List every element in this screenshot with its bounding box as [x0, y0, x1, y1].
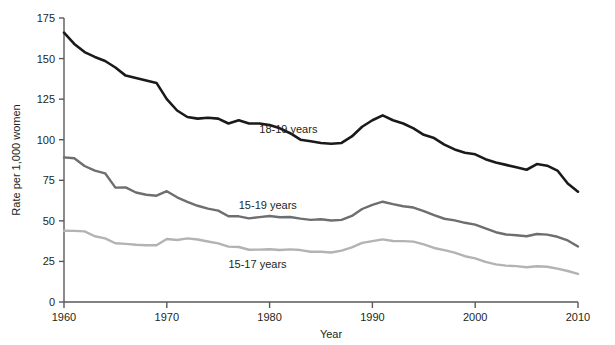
series-lines	[64, 33, 578, 274]
x-tick-label-2000: 2000	[463, 311, 487, 323]
y-tick-label-150: 150	[37, 53, 55, 65]
series-line-15-19-years	[64, 157, 578, 246]
y-axis-ticks: 0255075100125150175	[37, 12, 64, 308]
series-line-18-19-years	[64, 33, 578, 192]
x-tick-label-1990: 1990	[360, 311, 384, 323]
y-tick-label-100: 100	[37, 134, 55, 146]
y-tick-label-125: 125	[37, 93, 55, 105]
x-tick-label-1980: 1980	[257, 311, 281, 323]
chart-figure: 0255075100125150175 19601970198019902000…	[0, 0, 615, 345]
x-tick-label-2010: 2010	[566, 311, 590, 323]
y-axis-title: Rate per 1,000 women	[10, 104, 22, 215]
x-axis-title: Year	[320, 328, 343, 340]
x-axis-ticks: 196019701980199020002010	[52, 302, 590, 323]
y-tick-label-175: 175	[37, 12, 55, 24]
series-line-15-17-years	[64, 231, 578, 274]
x-tick-label-1970: 1970	[155, 311, 179, 323]
series-label-15-17-years: 15-17 years	[228, 258, 287, 270]
y-tick-label-50: 50	[43, 215, 55, 227]
axis-lines	[64, 18, 578, 302]
y-tick-label-0: 0	[49, 296, 55, 308]
y-tick-label-25: 25	[43, 255, 55, 267]
series-label-15-19-years: 15-19 years	[239, 199, 298, 211]
series-label-18-19-years: 18-19 years	[259, 123, 318, 135]
x-tick-label-1960: 1960	[52, 311, 76, 323]
line-chart: 0255075100125150175 19601970198019902000…	[0, 0, 615, 345]
y-tick-label-75: 75	[43, 174, 55, 186]
